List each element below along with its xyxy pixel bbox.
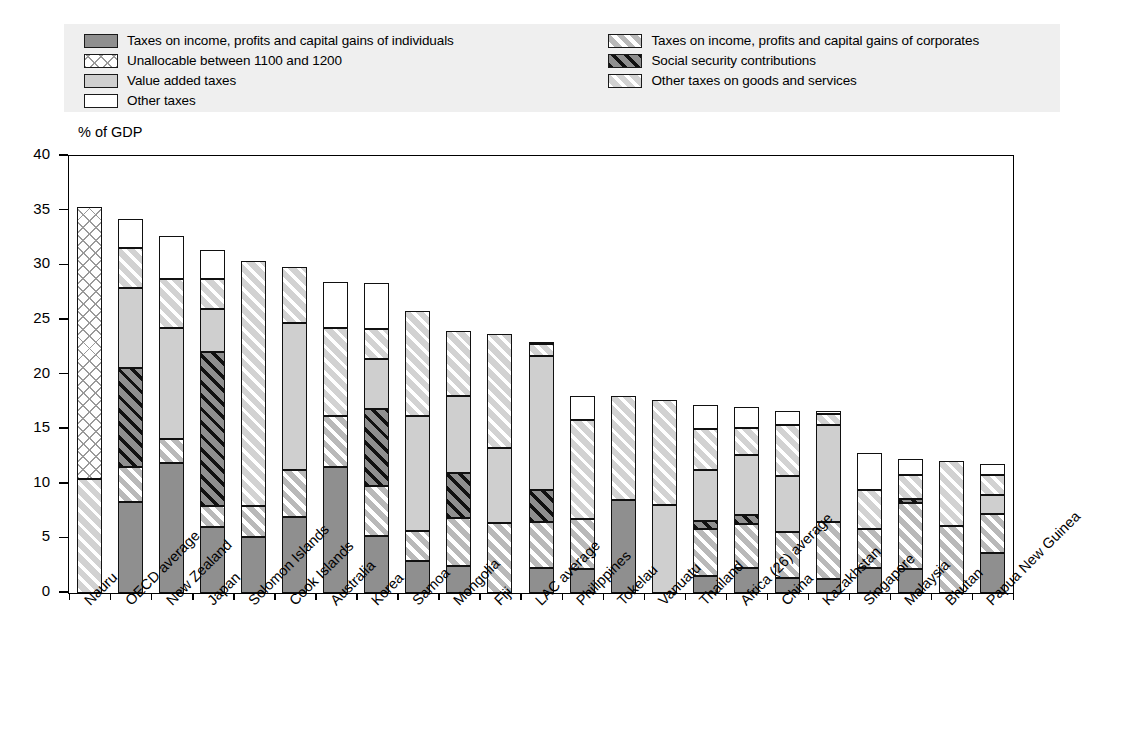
stacked-bar[interactable] (118, 156, 143, 593)
bar-column[interactable] (159, 156, 184, 593)
bar-segment-other_goods_services (323, 328, 348, 416)
stacked-bar[interactable] (364, 156, 389, 593)
bar-segment-other_goods_services (446, 331, 471, 397)
stacked-bar[interactable] (241, 156, 266, 593)
bar-segment-vat (446, 396, 471, 472)
legend-swatch-other-goods-services (608, 74, 642, 88)
bar-segment-vat (200, 309, 225, 352)
bar-segment-vat (405, 416, 430, 531)
legend-swatch-social-security (608, 54, 642, 68)
bar-column[interactable] (570, 156, 595, 593)
stacked-bar[interactable] (693, 156, 718, 593)
stacked-bar[interactable] (159, 156, 184, 593)
bar-column[interactable] (118, 156, 143, 593)
bar-segment-other_goods_services (529, 344, 554, 356)
bar-segment-vat (487, 448, 512, 523)
stacked-bar[interactable] (734, 156, 759, 593)
stacked-bar[interactable] (980, 156, 1005, 593)
bar-segment-other_goods_services (570, 420, 595, 518)
bar-column[interactable] (898, 156, 923, 593)
stacked-bar[interactable] (446, 156, 471, 593)
bar-column[interactable] (200, 156, 225, 593)
bar-segment-social_security (734, 515, 759, 524)
bar-column[interactable] (487, 156, 512, 593)
bar-column[interactable] (241, 156, 266, 593)
stacked-bar[interactable] (652, 156, 677, 593)
bar-segment-vat (282, 323, 307, 469)
y-axis-tick-label: 15 (10, 418, 50, 435)
legend-item: Other taxes on goods and services (608, 72, 1060, 90)
legend-swatch-vat (84, 74, 118, 88)
plot-frame (68, 155, 1014, 594)
stacked-bar[interactable] (200, 156, 225, 593)
bar-segment-other_taxes (364, 283, 389, 329)
bar-segment-other_goods_services (939, 461, 964, 527)
bar-segment-vat (693, 470, 718, 521)
y-axis: 4035302520151050 (0, 155, 68, 595)
bar-segment-other_goods_services (980, 475, 1005, 495)
bar-segment-other_taxes (323, 282, 348, 328)
legend-item: Other taxes (84, 92, 594, 110)
stacked-bar[interactable] (898, 156, 923, 593)
bar-column[interactable] (446, 156, 471, 593)
legend-label: Taxes on income, profits and capital gai… (651, 34, 979, 48)
y-axis-tick-mark (59, 482, 68, 484)
bar-segment-other_taxes (200, 250, 225, 279)
legend-item: Value added taxes (84, 72, 594, 90)
bar-segment-vat (364, 359, 389, 409)
stacked-bar[interactable] (487, 156, 512, 593)
y-axis-tick-mark (59, 373, 68, 375)
y-axis-tick-label: 10 (10, 473, 50, 490)
bar-segment-other_goods_services (734, 428, 759, 455)
bar-column[interactable] (980, 156, 1005, 593)
bar-segment-corporates (446, 518, 471, 566)
bar-segment-unallocable (77, 207, 102, 479)
stacked-bar[interactable] (857, 156, 882, 593)
bar-column[interactable] (282, 156, 307, 593)
legend-item: Taxes on income, profits and capital gai… (84, 32, 594, 50)
bar-segment-other_goods_services (364, 329, 389, 360)
y-axis-tick-label: 40 (10, 145, 50, 162)
bar-segment-corporates (282, 470, 307, 517)
bar-column[interactable] (693, 156, 718, 593)
bar-segment-vat (159, 328, 184, 439)
bar-segment-other_taxes (570, 396, 595, 420)
bar-segment-other_taxes (980, 464, 1005, 475)
stacked-bar[interactable] (775, 156, 800, 593)
bar-column[interactable] (405, 156, 430, 593)
stacked-bar[interactable] (282, 156, 307, 593)
stacked-bar[interactable] (939, 156, 964, 593)
stacked-bar[interactable] (611, 156, 636, 593)
bar-segment-vat (529, 356, 554, 490)
legend-column-right: Taxes on income, profits and capital gai… (594, 24, 1060, 112)
bar-column[interactable] (611, 156, 636, 593)
bar-segment-corporates (529, 522, 554, 568)
bar-segment-other_taxes (159, 236, 184, 280)
stacked-bar[interactable] (405, 156, 430, 593)
legend-label: Social security contributions (651, 54, 815, 68)
legend-label: Value added taxes (127, 74, 236, 88)
bar-segment-social_security (446, 473, 471, 518)
stacked-bar[interactable] (77, 156, 102, 593)
bar-segment-other_goods_services (487, 334, 512, 448)
y-axis-tick-mark (59, 591, 68, 593)
bar-segment-corporates (980, 514, 1005, 552)
bar-segment-corporates (241, 506, 266, 538)
bar-segment-other_goods_services (816, 414, 841, 425)
bar-column[interactable] (652, 156, 677, 593)
bar-column[interactable] (734, 156, 759, 593)
chart-legend: Taxes on income, profits and capital gai… (64, 24, 1060, 112)
stacked-bar[interactable] (529, 156, 554, 593)
bar-column[interactable] (775, 156, 800, 593)
stacked-bar[interactable] (570, 156, 595, 593)
bar-column[interactable] (364, 156, 389, 593)
bar-segment-other_taxes (816, 411, 841, 414)
x-axis-labels: NauruOECD averageNew ZealandJapanSolomon… (0, 597, 1124, 737)
y-axis-tick-mark (59, 537, 68, 539)
bar-column[interactable] (77, 156, 102, 593)
bar-segment-vat (118, 288, 143, 368)
bar-column[interactable] (529, 156, 554, 593)
bar-column[interactable] (939, 156, 964, 593)
bar-segment-social_security (898, 499, 923, 503)
bar-column[interactable] (857, 156, 882, 593)
